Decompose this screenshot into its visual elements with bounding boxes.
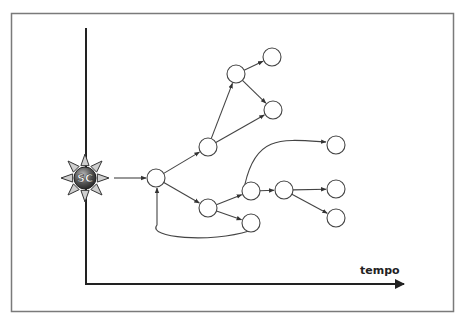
sun-ray-icon [81, 154, 89, 166]
node-n7 [242, 182, 260, 200]
sc-label: SC [77, 172, 93, 185]
edge-n2-n3 [211, 83, 232, 138]
time-axis-label: tempo [360, 264, 400, 277]
node-n6 [199, 199, 217, 217]
sun-ray-icon [97, 174, 109, 182]
edge-n9-n12 [292, 194, 327, 213]
node-n10 [327, 136, 345, 154]
node-n4 [263, 48, 281, 66]
edge-n2-n5 [216, 115, 264, 143]
edge-n6-n7 [216, 195, 241, 205]
edge-n3-n5 [242, 80, 265, 103]
node-n12 [327, 209, 345, 227]
node-n5 [264, 101, 282, 119]
edge-n3-n4 [244, 61, 263, 70]
node-n9 [275, 181, 293, 199]
node-n8 [242, 214, 260, 232]
node-n11 [327, 180, 345, 198]
sun-ray-icon [81, 190, 89, 202]
edge-n6-n8 [216, 211, 241, 220]
edges-group [114, 61, 327, 238]
edge-n9-n11 [293, 189, 326, 190]
node-n1 [147, 169, 165, 187]
node-n2 [199, 138, 217, 156]
sun-ray-icon [61, 174, 73, 182]
edge-n1-n6 [164, 182, 200, 203]
edge-n1-n2 [164, 152, 200, 173]
node-n3 [227, 65, 245, 83]
source-sc-icon: SC [61, 154, 109, 202]
nodes-group [147, 48, 345, 232]
edge-n7-n10 [245, 140, 326, 184]
